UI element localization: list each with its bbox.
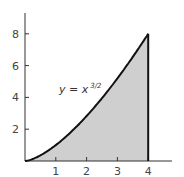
x-tick-label: 3 (114, 165, 121, 177)
x-tick-label: 2 (83, 165, 90, 177)
area-chart: 1234 2468 y = x3/2 (0, 0, 184, 177)
shaded-area (25, 34, 148, 161)
y-tick-label: 2 (12, 123, 19, 136)
y-tick-label: 4 (12, 91, 19, 104)
x-tick-label: 4 (145, 165, 152, 177)
y-ticks: 2468 (12, 28, 29, 136)
y-tick-label: 6 (12, 60, 19, 73)
y-tick-label: 8 (12, 28, 19, 41)
equation-label: y = x3/2 (58, 82, 102, 96)
x-tick-label: 1 (52, 165, 59, 177)
